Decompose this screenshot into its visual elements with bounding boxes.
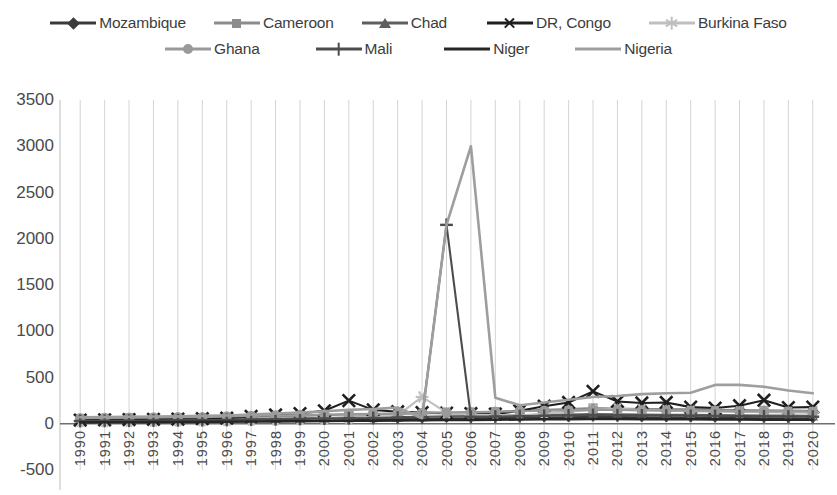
x-axis-tick-label: 2006 <box>463 430 479 466</box>
x-axis-tick-label: 2017 <box>732 430 748 466</box>
x-axis-tick-label: 2002 <box>365 430 381 466</box>
plot-area: 3500300025002000150010005000-500 1990199… <box>0 0 837 495</box>
x-axis-tick-label: 2015 <box>683 430 699 466</box>
legend-point-marker <box>504 17 516 29</box>
x-axis-tick-label: 2013 <box>634 430 650 466</box>
x-axis-tick-label: 2000 <box>316 430 332 466</box>
x-axis-tick-label: 2007 <box>487 430 503 466</box>
legend-point-marker <box>183 44 193 54</box>
x-axis-tick-label: 1992 <box>121 430 137 466</box>
x-axis-tick-label: 2018 <box>756 430 772 466</box>
x-axis-tick-label: 2009 <box>536 430 552 466</box>
x-axis-tick-label: 1993 <box>145 430 161 466</box>
x-axis-tick-label: 1994 <box>170 430 186 466</box>
x-axis-tick-label: 2014 <box>658 430 674 466</box>
x-axis-tick-label: 1997 <box>243 430 259 466</box>
legend-point-marker <box>232 19 241 28</box>
x-axis-tick-label: 2020 <box>805 430 821 466</box>
x-axis-tick-label: 2003 <box>390 430 406 466</box>
x-axis-tick-label: 1995 <box>194 430 210 466</box>
x-axis-tick-label: 2001 <box>341 430 357 466</box>
x-axis-tick-label: 2012 <box>609 430 625 466</box>
legend-point-marker <box>379 18 391 28</box>
x-axis-tick-label: 2008 <box>512 430 528 466</box>
x-axis-tick-label: 2016 <box>707 430 723 466</box>
x-axis-tick-labels: 1990199119921993199419951996199719981999… <box>0 0 837 495</box>
x-axis-tick-label: 2019 <box>780 430 796 466</box>
x-axis-tick-label: 2004 <box>414 430 430 466</box>
x-axis-tick-label: 2010 <box>561 430 577 466</box>
x-axis-tick-label: 1991 <box>97 430 113 466</box>
line-chart: MozambiqueCameroonChadDR, CongoBurkina F… <box>0 0 837 495</box>
x-axis-tick-label: 2011 <box>585 430 601 465</box>
legend-point-marker <box>333 43 345 55</box>
x-axis-tick-label: 1990 <box>72 430 88 466</box>
legend-point-marker <box>666 17 678 29</box>
x-axis-tick-label: 2005 <box>439 430 455 466</box>
x-axis-tick-label: 1996 <box>219 430 235 466</box>
x-axis-tick-label: 1999 <box>292 430 308 466</box>
x-axis-tick-label: 1998 <box>268 430 284 466</box>
